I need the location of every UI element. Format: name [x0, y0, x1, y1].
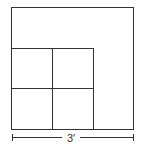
inner-grid [12, 49, 94, 130]
grid-square-top-left [12, 49, 53, 89]
diagram: 3′ [0, 0, 141, 145]
grid-square-bottom-right [53, 89, 94, 130]
dimension-label: 3′ [67, 132, 75, 144]
grid-square-top-right [53, 49, 94, 89]
grid-square-bottom-left [12, 89, 53, 130]
outer-square [12, 8, 134, 130]
